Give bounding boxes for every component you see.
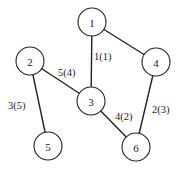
node-5: 5	[34, 132, 62, 160]
node-6: 6	[122, 133, 150, 161]
node-label: 3	[88, 96, 94, 108]
edges	[30, 22, 156, 147]
node-label: 5	[45, 141, 51, 153]
edge-label-4-6: 2(3)	[152, 104, 170, 116]
node-label: 2	[27, 56, 33, 68]
node-4: 4	[142, 48, 170, 76]
edge-label-2-5: 3(5)	[8, 100, 26, 112]
node-label: 4	[153, 57, 159, 69]
edge-label-2-3: 5(4)	[58, 67, 76, 79]
node-2: 2	[16, 47, 44, 75]
edge-label-1-3: 1(1)	[94, 51, 112, 63]
nodes: 123456	[16, 8, 170, 161]
node-1: 1	[78, 8, 106, 36]
node-3: 3	[77, 87, 105, 115]
graph-diagram: 1(1)5(4)3(5)4(2)2(3) 123456	[0, 0, 177, 171]
edge-label-3-6: 4(2)	[115, 111, 133, 123]
node-label: 6	[133, 142, 139, 154]
node-label: 1	[89, 17, 95, 29]
